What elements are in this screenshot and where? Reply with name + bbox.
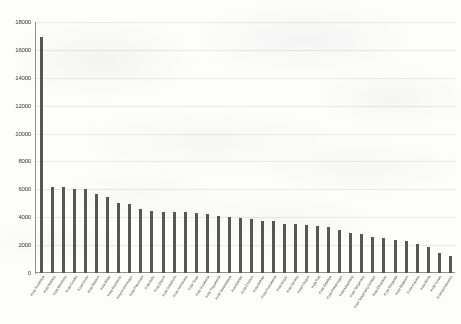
bar-slot <box>367 22 378 273</box>
bar-slot <box>146 22 157 273</box>
bar-slot <box>58 22 69 273</box>
y-tick-label: 16000 <box>15 47 31 53</box>
x-label-slot: Kota Mataram <box>401 275 412 324</box>
bar[interactable] <box>305 225 308 273</box>
bar-slot <box>47 22 58 273</box>
bar-slot <box>213 22 224 273</box>
bar-slot <box>202 22 213 273</box>
y-tick-label: 10000 <box>15 131 31 137</box>
x-label-slot: Kota Tangerang Selatan <box>367 275 378 324</box>
bar[interactable] <box>349 233 352 273</box>
bar-slot <box>80 22 91 273</box>
x-label-slot: Kota Blitar <box>102 275 113 324</box>
bar-slot <box>323 22 334 273</box>
bar[interactable] <box>51 187 54 273</box>
x-label-slot: Kota Malang <box>47 275 58 324</box>
x-label-slot: Kota Kupang <box>412 275 423 324</box>
bar-slot <box>445 22 456 273</box>
bar[interactable] <box>416 244 419 273</box>
bar[interactable] <box>327 227 330 273</box>
bar[interactable] <box>394 240 397 273</box>
bar[interactable] <box>162 212 165 273</box>
bar-slot <box>257 22 268 273</box>
bar[interactable] <box>360 234 363 273</box>
bar[interactable] <box>84 189 87 273</box>
bar-slot <box>124 22 135 273</box>
bar-slot <box>334 22 345 273</box>
bar[interactable] <box>438 253 441 273</box>
bar[interactable] <box>73 189 76 273</box>
x-label-slot: Kota Purwakarta <box>268 275 279 324</box>
x-label-slot: Kota Bondowoso <box>445 275 456 324</box>
x-label-slot: Kota Probolinggo <box>124 275 135 324</box>
y-tick-label: 12000 <box>15 103 31 109</box>
x-label-slot: Kota Cirebon <box>246 275 257 324</box>
x-label-slot: Kota Tegal <box>191 275 202 324</box>
bar[interactable] <box>106 197 109 273</box>
bar[interactable] <box>272 221 275 273</box>
bar[interactable] <box>184 212 187 273</box>
bar[interactable] <box>139 209 142 273</box>
bar[interactable] <box>195 213 198 273</box>
bar-slot <box>268 22 279 273</box>
bar[interactable] <box>371 237 374 273</box>
y-tick-label: 18000 <box>15 19 31 25</box>
x-label-slot: Kota Surakarta <box>202 275 213 324</box>
x-label-slot: Kota Cimahi <box>69 275 80 324</box>
bar-slot <box>412 22 423 273</box>
bar[interactable] <box>150 211 153 273</box>
bar-slot <box>113 22 124 273</box>
bar[interactable] <box>250 219 253 273</box>
bar[interactable] <box>117 203 120 273</box>
x-label-slot: Kota Semarang <box>180 275 191 324</box>
bar[interactable] <box>427 247 430 273</box>
bar[interactable] <box>128 204 131 273</box>
bar[interactable] <box>283 224 286 274</box>
x-label-slot: Kota Pekalongan <box>334 275 345 324</box>
y-tick-label: 0 <box>28 270 31 276</box>
bar[interactable] <box>217 216 220 273</box>
bar-slot <box>36 22 47 273</box>
bar[interactable] <box>316 226 319 273</box>
x-label-slot: Kota Bekasi <box>257 275 268 324</box>
bar[interactable] <box>239 218 242 273</box>
y-tick-label: 4000 <box>18 214 31 220</box>
bar-slot <box>246 22 257 273</box>
bar-slot <box>135 22 146 273</box>
bar-slot <box>191 22 202 273</box>
bar[interactable] <box>173 212 176 273</box>
y-tick-label: 14000 <box>15 75 31 81</box>
bar-slot <box>378 22 389 273</box>
x-label-slot: Kota Bandung <box>58 275 69 324</box>
bar-slot <box>390 22 401 273</box>
x-label-slot: Kota Depok <box>158 275 169 324</box>
bar[interactable] <box>228 217 231 273</box>
x-label-slot: Kota Kediri <box>80 275 91 324</box>
x-label-slot: Kota Pasuruan <box>135 275 146 324</box>
bar-chart: 0200040006000800010000120001400016000180… <box>0 0 461 324</box>
bar[interactable] <box>40 37 43 273</box>
y-tick-label: 2000 <box>18 242 31 248</box>
bar[interactable] <box>405 241 408 273</box>
bar-slot <box>224 22 235 273</box>
plot-area <box>36 22 456 273</box>
bar[interactable] <box>382 238 385 273</box>
x-label-slot: Kota Pati <box>312 275 323 324</box>
bar[interactable] <box>449 256 452 273</box>
bar-slot <box>401 22 412 273</box>
bar[interactable] <box>62 187 65 273</box>
bar-slot <box>169 22 180 273</box>
bar-slot <box>180 22 191 273</box>
y-tick-label: 8000 <box>18 158 31 164</box>
bar[interactable] <box>294 224 297 273</box>
x-axis: Kota SurabayaKota MalangKota BandungKota… <box>36 275 456 324</box>
bar-slot <box>102 22 113 273</box>
bar[interactable] <box>95 194 98 273</box>
bar[interactable] <box>261 221 264 273</box>
x-label-slot: Kota Tasikmalaya <box>224 275 235 324</box>
x-label-slot: Kota Madiun <box>91 275 102 324</box>
bar-slot <box>345 22 356 273</box>
bar[interactable] <box>338 230 341 273</box>
bar[interactable] <box>206 214 209 273</box>
bar-slot <box>356 22 367 273</box>
